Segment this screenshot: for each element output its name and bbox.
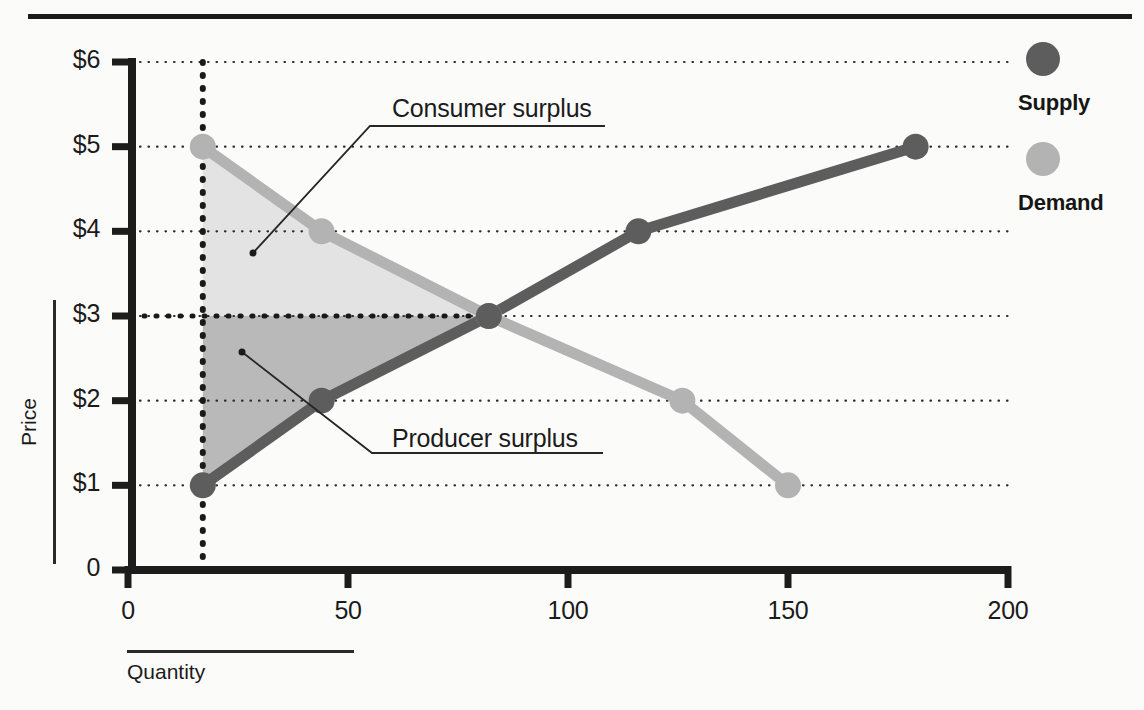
x-tick-label: 50 (308, 596, 388, 625)
y-tick-label: $6 (42, 45, 100, 74)
x-tick-label: 200 (968, 596, 1048, 625)
y-tick-label: $2 (42, 384, 100, 413)
y-axis-title-group: Price (6, 300, 46, 560)
legend-item-supply[interactable]: Supply (1018, 42, 1138, 116)
consumer-surplus-label: Consumer surplus (392, 94, 592, 123)
data-point-marker (625, 218, 651, 244)
data-point-marker (903, 134, 929, 160)
legend-label-demand: Demand (1018, 190, 1138, 216)
y-tick-label: $5 (42, 130, 100, 159)
y-tick-label: $1 (42, 468, 100, 497)
legend-label-supply: Supply (1018, 90, 1138, 116)
producer-surplus-label: Producer surplus (392, 424, 578, 453)
y-tick-label: $4 (42, 214, 100, 243)
legend-item-demand[interactable]: Demand (1018, 142, 1138, 216)
y-tick-label: 0 (42, 553, 100, 582)
data-point-marker (775, 472, 801, 498)
data-point-marker (309, 218, 335, 244)
y-axis-title-rule (53, 300, 56, 564)
x-axis-title: Quantity (127, 660, 205, 684)
producer-surplus-leader-dot (239, 349, 246, 356)
data-point-marker (669, 388, 695, 414)
consumer-surplus-leader-dot (250, 250, 257, 257)
data-point-marker (309, 388, 335, 414)
chart-legend: Supply Demand (1018, 42, 1138, 242)
filled-circle-icon (1026, 42, 1060, 76)
x-axis-title-rule (127, 650, 354, 653)
data-point-marker (190, 472, 216, 498)
filled-circle-icon (1026, 142, 1060, 176)
x-tick-label: 150 (748, 596, 828, 625)
data-point-marker (190, 134, 216, 160)
chart-page: $6$5$4$3$2$10 050100150200 Price Quantit… (0, 0, 1144, 710)
x-tick-label: 100 (528, 596, 608, 625)
y-tick-label: $3 (42, 299, 100, 328)
y-axis-title: Price (17, 357, 41, 487)
data-point-marker (476, 303, 502, 329)
x-tick-label: 0 (88, 596, 168, 625)
